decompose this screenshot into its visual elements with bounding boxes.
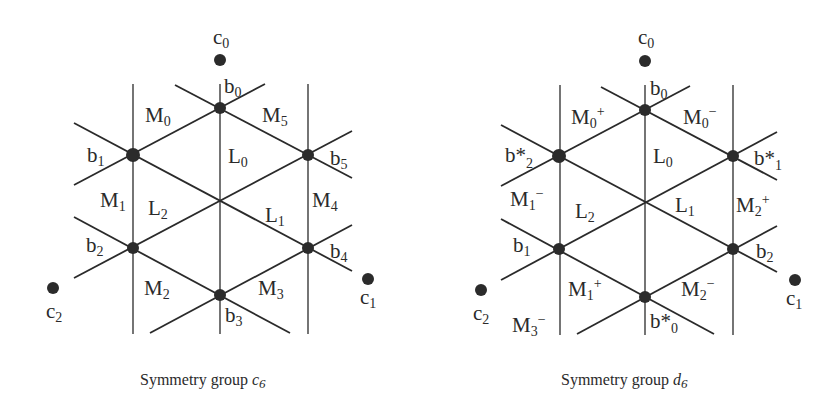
label-b1: b1 [87, 143, 105, 169]
node-b1 [553, 243, 565, 255]
node-b-star-0 [639, 291, 651, 303]
point-c0 [639, 55, 651, 67]
node-b1 [126, 148, 140, 162]
label-M5: M5 [262, 103, 288, 129]
label-b-star-1: b*1 [754, 146, 782, 173]
label-L1: L1 [675, 193, 695, 219]
caption-c6: Symmetry group c6 [140, 371, 266, 391]
point-c2 [47, 282, 59, 294]
label-c1: c1 [360, 285, 376, 311]
label-b4: b4 [330, 239, 348, 265]
node-b2 [127, 242, 139, 254]
label-c0: c0 [213, 25, 229, 51]
point-c0 [214, 54, 226, 66]
label-L2: L2 [575, 199, 595, 225]
label-b0: b0 [650, 76, 668, 102]
node-b2 [727, 243, 739, 255]
label-c0: c0 [638, 25, 654, 51]
label-b1: b1 [513, 233, 531, 259]
label-L2: L2 [148, 196, 168, 222]
label-b2: b2 [756, 239, 774, 265]
diagonal-line [150, 225, 352, 333]
label-L0: L0 [228, 144, 248, 170]
node-b3 [214, 289, 226, 301]
label-M0-minus: M0− [683, 104, 717, 131]
node-b-star-1 [727, 150, 739, 162]
node-b4 [302, 242, 314, 254]
label-M2-minus: M2− [681, 276, 715, 303]
label-b-star-2: b*2 [505, 143, 533, 171]
label-b2: b2 [86, 233, 104, 259]
node-b0 [639, 104, 651, 116]
label-M0: M0 [145, 103, 171, 129]
label-c2: c2 [46, 299, 62, 325]
point-c1 [362, 273, 374, 285]
label-b5: b5 [330, 146, 348, 172]
point-c2 [475, 284, 487, 296]
caption-d6: Symmetry group d6 [561, 371, 688, 391]
diagonal-line [175, 85, 352, 178]
label-M2: M2 [144, 276, 170, 302]
label-M1-minus: M1− [510, 186, 544, 213]
node-b-star-2 [552, 149, 566, 163]
label-M0-plus: M0+ [571, 104, 605, 131]
label-M2-plus: M2+ [736, 192, 770, 219]
panel-c6: c0 c1 c2 b0 b1 b2 b3 b4 b5 L0 L1 L2 M0 M… [46, 25, 376, 391]
label-L1: L1 [265, 203, 285, 229]
label-c1: c1 [786, 286, 802, 312]
node-b5 [302, 149, 314, 161]
label-M3: M3 [258, 276, 284, 302]
diagonal-line [601, 87, 777, 180]
label-M1-plus: M1+ [568, 276, 602, 303]
symmetry-diagram-canvas: c0 c1 c2 b0 b1 b2 b3 b4 b5 L0 L1 L2 M0 M… [0, 0, 834, 415]
node-b0 [214, 102, 226, 114]
diagonal-line [577, 226, 777, 334]
label-M1: M1 [100, 188, 126, 214]
label-c2: c2 [473, 301, 489, 327]
panel-d6: c0 c1 c2 b0 b*2 b*1 b1 b2 b*0 L0 L1 L2 M… [473, 25, 802, 391]
label-b0: b0 [224, 74, 242, 100]
label-M3-minus: M3− [512, 312, 546, 339]
label-L0: L0 [653, 144, 673, 170]
point-c1 [789, 274, 801, 286]
label-M4: M4 [312, 188, 338, 214]
